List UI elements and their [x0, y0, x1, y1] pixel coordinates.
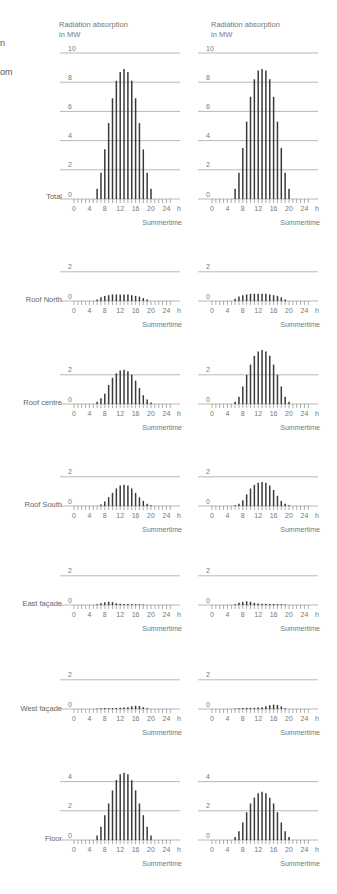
x-unit-label: h — [177, 512, 181, 519]
y-tick-label: 8 — [68, 74, 72, 81]
chart-total-right: 024681004812162024hSummertime — [198, 45, 320, 227]
x-tick-label: 16 — [132, 410, 140, 417]
x-tick-label: 8 — [241, 410, 245, 417]
x-axis-caption: Summertime — [142, 526, 182, 533]
x-tick-label: 12 — [254, 205, 262, 212]
x-tick-label: 16 — [270, 512, 278, 519]
x-tick-label: 16 — [270, 410, 278, 417]
x-axis-caption: Summertime — [142, 219, 182, 226]
x-tick-label: 12 — [254, 307, 262, 314]
x-unit-label: h — [315, 512, 319, 519]
x-unit-label: h — [315, 205, 319, 212]
x-tick-label: 0 — [210, 512, 214, 519]
x-tick-label: 8 — [241, 512, 245, 519]
x-tick-label: 24 — [301, 410, 309, 417]
x-tick-label: 4 — [225, 307, 229, 314]
chart-east-fa-ade-left: 0204812162024hSummertime — [60, 567, 182, 632]
x-unit-label: h — [177, 611, 181, 618]
x-unit-label: h — [177, 307, 181, 314]
x-tick-label: 4 — [87, 307, 91, 314]
chart-floor-left: 02404812162024hSummertime — [60, 773, 182, 867]
y-tick-label: 2 — [206, 366, 210, 373]
x-tick-label: 0 — [210, 410, 214, 417]
y-tick-label: 0 — [68, 396, 72, 403]
x-unit-label: h — [177, 205, 181, 212]
x-tick-label: 0 — [210, 307, 214, 314]
y-tick-label: 0 — [206, 191, 210, 198]
y-tick-label: 0 — [68, 597, 72, 604]
y-tick-label: 2 — [68, 263, 72, 270]
x-tick-label: 12 — [116, 205, 124, 212]
x-tick-label: 8 — [103, 846, 107, 853]
x-unit-label: h — [315, 715, 319, 722]
y-tick-label: 2 — [68, 468, 72, 475]
x-unit-label: h — [315, 611, 319, 618]
x-tick-label: 24 — [301, 846, 309, 853]
x-tick-label: 4 — [225, 512, 229, 519]
x-tick-label: 12 — [254, 715, 262, 722]
x-tick-label: 24 — [163, 410, 171, 417]
y-tick-label: 4 — [206, 773, 210, 780]
y-tick-label: 0 — [206, 293, 210, 300]
y-tick-label: 0 — [206, 498, 210, 505]
y-tick-label: 2 — [206, 263, 210, 270]
x-tick-label: 20 — [285, 410, 293, 417]
x-unit-label: h — [177, 410, 181, 417]
x-axis-caption: Summertime — [142, 729, 182, 736]
x-axis-caption: Summertime — [280, 219, 320, 226]
y-tick-label: 2 — [68, 366, 72, 373]
x-tick-label: 20 — [285, 611, 293, 618]
x-tick-label: 8 — [241, 205, 245, 212]
x-axis-caption: Summertime — [142, 625, 182, 632]
x-tick-label: 12 — [116, 410, 124, 417]
x-tick-label: 20 — [147, 205, 155, 212]
x-tick-label: 12 — [254, 611, 262, 618]
x-tick-label: 20 — [147, 611, 155, 618]
x-tick-label: 0 — [72, 410, 76, 417]
x-tick-label: 0 — [72, 611, 76, 618]
x-tick-label: 12 — [116, 512, 124, 519]
x-tick-label: 24 — [163, 611, 171, 618]
x-tick-label: 8 — [241, 846, 245, 853]
x-tick-label: 16 — [132, 205, 140, 212]
x-tick-label: 24 — [163, 307, 171, 314]
x-axis-caption: Summertime — [280, 860, 320, 867]
x-tick-label: 4 — [225, 715, 229, 722]
x-tick-label: 20 — [147, 846, 155, 853]
x-axis-caption: Summertime — [280, 321, 320, 328]
x-tick-label: 24 — [163, 715, 171, 722]
x-axis-caption: Summertime — [280, 625, 320, 632]
x-tick-label: 16 — [132, 846, 140, 853]
x-tick-label: 16 — [270, 846, 278, 853]
y-tick-label: 0 — [206, 832, 210, 839]
x-tick-label: 20 — [285, 512, 293, 519]
y-tick-label: 2 — [68, 161, 72, 168]
x-tick-label: 0 — [210, 611, 214, 618]
x-unit-label: h — [177, 715, 181, 722]
x-axis-caption: Summertime — [142, 860, 182, 867]
x-tick-label: 0 — [72, 205, 76, 212]
x-unit-label: h — [315, 846, 319, 853]
x-tick-label: 8 — [241, 307, 245, 314]
x-tick-label: 16 — [132, 512, 140, 519]
x-tick-label: 20 — [285, 846, 293, 853]
chart-roof-centre-right: 0204812162024hSummertime — [198, 350, 320, 431]
x-tick-label: 8 — [241, 611, 245, 618]
chart-west-fa-ade-left: 0204812162024hSummertime — [60, 671, 182, 736]
x-tick-label: 16 — [270, 611, 278, 618]
x-tick-label: 8 — [103, 715, 107, 722]
x-tick-label: 16 — [132, 307, 140, 314]
x-unit-label: h — [315, 307, 319, 314]
x-tick-label: 16 — [270, 205, 278, 212]
y-tick-label: 0 — [68, 498, 72, 505]
x-tick-label: 4 — [225, 611, 229, 618]
chart-floor-right: 02404812162024hSummertime — [198, 773, 320, 867]
x-tick-label: 8 — [103, 307, 107, 314]
y-tick-label: 10 — [68, 45, 76, 52]
y-tick-label: 0 — [68, 701, 72, 708]
y-tick-label: 2 — [206, 567, 210, 574]
x-unit-label: h — [315, 410, 319, 417]
x-tick-label: 24 — [301, 611, 309, 618]
y-tick-label: 2 — [206, 671, 210, 678]
x-tick-label: 16 — [270, 307, 278, 314]
